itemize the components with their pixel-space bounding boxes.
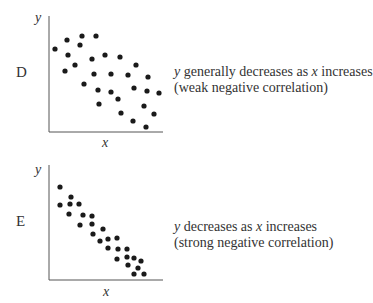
- data-point: [93, 33, 98, 38]
- data-point: [77, 42, 82, 47]
- data-point: [118, 110, 123, 115]
- x-axis-label-e: x: [103, 284, 109, 300]
- data-point: [131, 255, 136, 260]
- caption-e-line2: (strong negative correlation): [174, 235, 333, 251]
- data-point: [81, 81, 86, 86]
- data-point: [131, 271, 136, 276]
- data-point: [67, 201, 72, 206]
- data-point: [115, 96, 120, 101]
- data-point: [145, 74, 150, 79]
- data-point: [156, 90, 161, 95]
- data-point: [57, 202, 62, 207]
- caption-e-line1: y decreases as x increases: [174, 219, 333, 235]
- data-point: [135, 265, 140, 270]
- data-point: [114, 235, 119, 240]
- data-point: [79, 33, 84, 38]
- data-point: [108, 71, 113, 76]
- data-point: [52, 46, 57, 51]
- data-point: [117, 54, 122, 59]
- data-point: [105, 236, 110, 241]
- data-point: [125, 72, 130, 77]
- data-point: [133, 62, 138, 67]
- data-point: [131, 85, 136, 90]
- data-point: [90, 231, 95, 236]
- data-point: [89, 213, 94, 218]
- data-point: [102, 52, 107, 57]
- data-point: [95, 87, 100, 92]
- data-point: [141, 103, 146, 108]
- data-point: [77, 222, 82, 227]
- caption-d-line1: y generally decreases as x increases: [174, 64, 373, 80]
- data-point: [143, 124, 148, 129]
- caption-e: y decreases as x increases (strong negat…: [174, 219, 333, 251]
- data-point: [65, 52, 70, 57]
- data-point: [66, 211, 71, 216]
- data-point: [108, 89, 113, 94]
- data-point: [89, 221, 94, 226]
- data-point: [89, 56, 94, 61]
- axes-e: [49, 165, 163, 280]
- data-point: [97, 238, 102, 243]
- panel-letter-d: D: [16, 64, 27, 81]
- caption-d-line2: (weak negative correlation): [174, 80, 373, 96]
- data-point: [72, 62, 77, 67]
- data-point: [144, 88, 149, 93]
- data-point: [124, 246, 129, 251]
- data-point: [68, 194, 73, 199]
- data-point: [114, 256, 119, 261]
- data-point: [62, 68, 67, 73]
- data-point: [80, 212, 85, 217]
- data-point: [115, 246, 120, 251]
- y-axis-label-d: y: [35, 10, 41, 26]
- y-axis-label-e: y: [35, 162, 41, 178]
- axes-d: [49, 16, 163, 132]
- data-point: [57, 184, 62, 189]
- data-point: [130, 118, 135, 123]
- data-point: [138, 258, 143, 263]
- data-point: [64, 37, 69, 42]
- data-point: [124, 254, 129, 259]
- data-point: [76, 201, 81, 206]
- panel-letter-e: E: [16, 213, 25, 230]
- data-point: [105, 245, 110, 250]
- data-point: [100, 226, 105, 231]
- data-point: [141, 271, 146, 276]
- data-point: [125, 262, 130, 267]
- x-axis-label-d: x: [102, 135, 108, 151]
- data-point: [91, 71, 96, 76]
- data-point: [96, 101, 101, 106]
- data-point: [151, 111, 156, 116]
- caption-d: y generally decreases as x increases (we…: [174, 64, 373, 96]
